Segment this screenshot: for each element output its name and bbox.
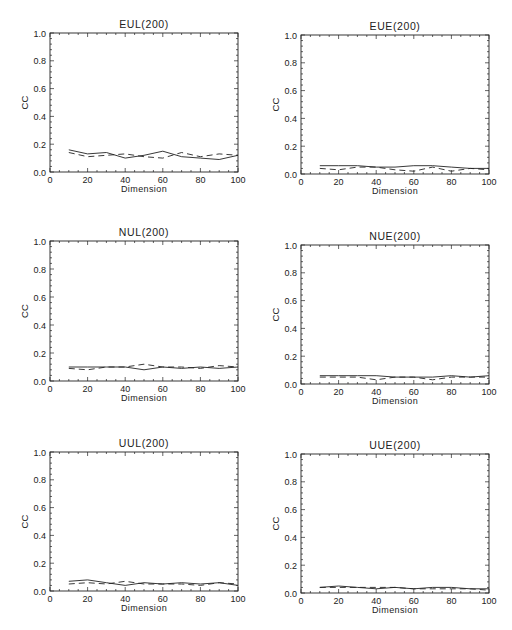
dashed-series-line (320, 587, 489, 590)
y-tick-label: 0.8 (284, 58, 297, 68)
chart-canvas: EUL(200)0.00.20.40.60.81.0020406080100Di… (0, 0, 512, 630)
y-tick-label: 0.4 (33, 112, 46, 122)
solid-series-line (320, 166, 489, 169)
y-tick-label: 0.0 (284, 380, 297, 390)
x-axis-label: Dimension (372, 396, 418, 406)
plot-frame (50, 452, 238, 591)
chart-panel: EUL(200)0.00.20.40.60.81.0020406080100Di… (19, 18, 246, 194)
x-tick-label: 0 (47, 384, 52, 394)
chart-title: EUL(200) (119, 18, 169, 30)
figure-grid: EUL(200)0.00.20.40.60.81.0020406080100Di… (0, 0, 512, 630)
y-tick-label: 0.4 (284, 114, 297, 124)
chart-title: NUL(200) (119, 226, 169, 238)
y-axis-label: CC (270, 308, 281, 322)
x-tick-label: 0 (47, 175, 52, 185)
x-tick-label: 100 (481, 387, 496, 397)
y-tick-label: 0.4 (33, 531, 46, 541)
y-tick-label: 1.0 (33, 237, 46, 247)
y-tick-label: 0.8 (33, 56, 46, 66)
x-tick-label: 20 (83, 175, 93, 185)
y-tick-label: 0.6 (284, 296, 297, 306)
x-tick-label: 0 (47, 594, 52, 604)
x-tick-label: 100 (481, 177, 496, 187)
y-tick-label: 0.8 (33, 265, 46, 275)
y-tick-label: 1.0 (33, 448, 46, 458)
x-tick-label: 80 (446, 177, 456, 187)
chart-title: UUE(200) (369, 439, 420, 451)
plot-frame (301, 245, 489, 384)
y-tick-label: 1.0 (284, 450, 297, 460)
y-tick-label: 1.0 (284, 31, 297, 41)
y-tick-label: 0.2 (33, 140, 46, 150)
y-tick-label: 0.4 (33, 321, 46, 331)
chart-panel: EUE(200)0.00.20.40.60.81.0020406080100Di… (270, 20, 497, 196)
y-tick-label: 0.6 (284, 505, 297, 515)
x-axis-label: Dimension (372, 186, 418, 196)
chart-panel: UUL(200)0.00.20.40.60.81.0020406080100Di… (19, 437, 246, 613)
x-tick-label: 20 (83, 594, 93, 604)
x-tick-label: 20 (334, 177, 344, 187)
y-tick-label: 0.0 (33, 377, 46, 387)
x-tick-label: 100 (230, 384, 245, 394)
y-tick-label: 1.0 (284, 241, 297, 251)
x-tick-label: 0 (298, 177, 303, 187)
y-axis-label: CC (19, 96, 30, 110)
chart-panel: UUE(200)0.00.20.40.60.81.0020406080100Di… (270, 439, 497, 615)
plot-frame (301, 35, 489, 174)
x-axis-label: Dimension (121, 184, 167, 194)
y-tick-label: 0.2 (33, 559, 46, 569)
y-tick-label: 0.6 (33, 293, 46, 303)
x-tick-label: 80 (446, 387, 456, 397)
y-tick-label: 0.8 (284, 268, 297, 278)
y-tick-label: 0.6 (33, 84, 46, 94)
x-axis-label: Dimension (121, 393, 167, 403)
solid-series-line (69, 580, 238, 586)
x-tick-label: 80 (195, 175, 205, 185)
chart-title: EUE(200) (370, 20, 421, 32)
y-tick-label: 0.2 (33, 349, 46, 359)
chart-panel: NUL(200)0.00.20.40.60.81.0020406080100Di… (19, 226, 246, 403)
y-tick-label: 0.8 (33, 475, 46, 485)
x-tick-label: 20 (334, 596, 344, 606)
x-axis-label: Dimension (121, 603, 167, 613)
x-tick-label: 100 (481, 596, 496, 606)
y-tick-label: 0.8 (284, 477, 297, 487)
x-tick-label: 80 (195, 384, 205, 394)
y-tick-label: 1.0 (33, 29, 46, 39)
y-tick-label: 0.2 (284, 352, 297, 362)
y-tick-label: 0.6 (33, 503, 46, 513)
x-tick-label: 80 (446, 596, 456, 606)
y-tick-label: 0.4 (284, 533, 297, 543)
x-tick-label: 100 (230, 175, 245, 185)
y-tick-label: 0.0 (284, 170, 297, 180)
chart-title: NUE(200) (369, 230, 420, 242)
y-axis-label: CC (19, 304, 30, 318)
chart-panel: NUE(200)0.00.20.40.60.81.0020406080100Di… (270, 230, 497, 406)
y-tick-label: 0.6 (284, 86, 297, 96)
x-tick-label: 80 (195, 594, 205, 604)
y-axis-label: CC (270, 98, 281, 112)
solid-series-line (69, 150, 238, 160)
x-tick-label: 100 (230, 594, 245, 604)
y-axis-label: CC (19, 515, 30, 529)
x-tick-label: 0 (298, 596, 303, 606)
y-tick-label: 0.2 (284, 561, 297, 571)
dashed-series-line (320, 377, 489, 380)
x-axis-label: Dimension (372, 605, 418, 615)
y-tick-label: 0.4 (284, 324, 297, 334)
x-tick-label: 20 (334, 387, 344, 397)
plot-frame (50, 33, 238, 172)
x-tick-label: 0 (298, 387, 303, 397)
chart-title: UUL(200) (119, 437, 169, 449)
y-tick-label: 0.0 (33, 168, 46, 178)
y-tick-label: 0.0 (284, 589, 297, 599)
plot-frame (50, 241, 238, 381)
plot-frame (301, 454, 489, 593)
x-tick-label: 20 (83, 384, 93, 394)
y-axis-label: CC (270, 517, 281, 531)
y-tick-label: 0.0 (33, 587, 46, 597)
y-tick-label: 0.2 (284, 142, 297, 152)
